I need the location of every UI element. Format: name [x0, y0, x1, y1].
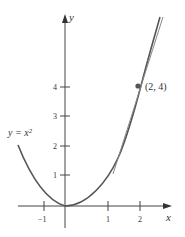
tangent-line [113, 17, 163, 174]
y-tick-label: 1 [53, 171, 57, 180]
x-axis-label: x [165, 211, 171, 223]
curve-label-text: y = x² [7, 127, 33, 138]
chart-svg: −1 1 2 1 2 3 4 x y (2, 4) y = x² [0, 0, 185, 237]
chart-figure: −1 1 2 1 2 3 4 x y (2, 4) y = x² [0, 0, 185, 237]
point-label: (2, 4) [145, 81, 167, 93]
curve-label: y = x² [7, 127, 33, 138]
x-tick-label: 1 [106, 215, 110, 224]
parabola-curve [18, 17, 160, 206]
y-tick-label: 2 [53, 142, 57, 151]
y-tick-label: 4 [53, 83, 57, 92]
x-axis-arrow-icon [163, 203, 172, 209]
x-tick-label: 2 [138, 215, 142, 224]
y-axis-label: y [68, 11, 74, 23]
y-tick-label: 3 [53, 112, 57, 121]
y-axis-arrow-icon [62, 14, 68, 23]
tangent-point [135, 83, 140, 88]
x-tick-label: −1 [38, 215, 47, 224]
